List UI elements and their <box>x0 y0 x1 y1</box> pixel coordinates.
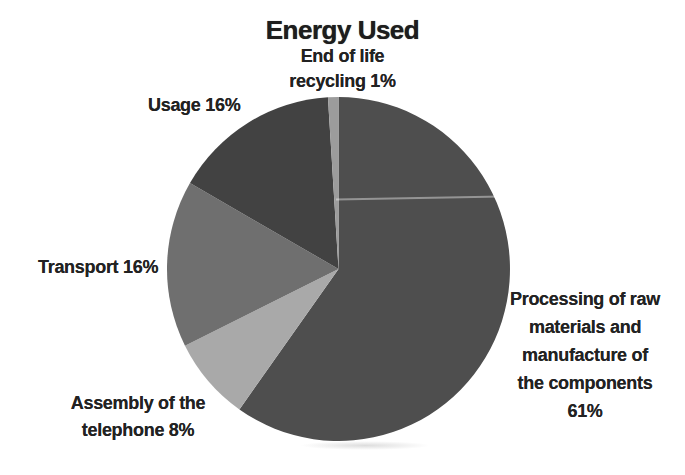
slice-label-transport: Transport 16% <box>38 257 158 278</box>
chart-title: Energy Used <box>0 15 685 46</box>
slice-label-assembly: Assembly of the telephone 8% <box>44 390 232 444</box>
scan-artifact-shadow <box>300 441 430 450</box>
slice-label-usage: Usage 16% <box>148 95 240 116</box>
slice-label-processing: Processing of raw materials and manufact… <box>491 285 679 425</box>
slice-label-end-of-life: End of life recycling 1% <box>260 44 425 94</box>
scanned-chart-page: Energy Used End of life recycling 1% Usa… <box>0 0 685 475</box>
